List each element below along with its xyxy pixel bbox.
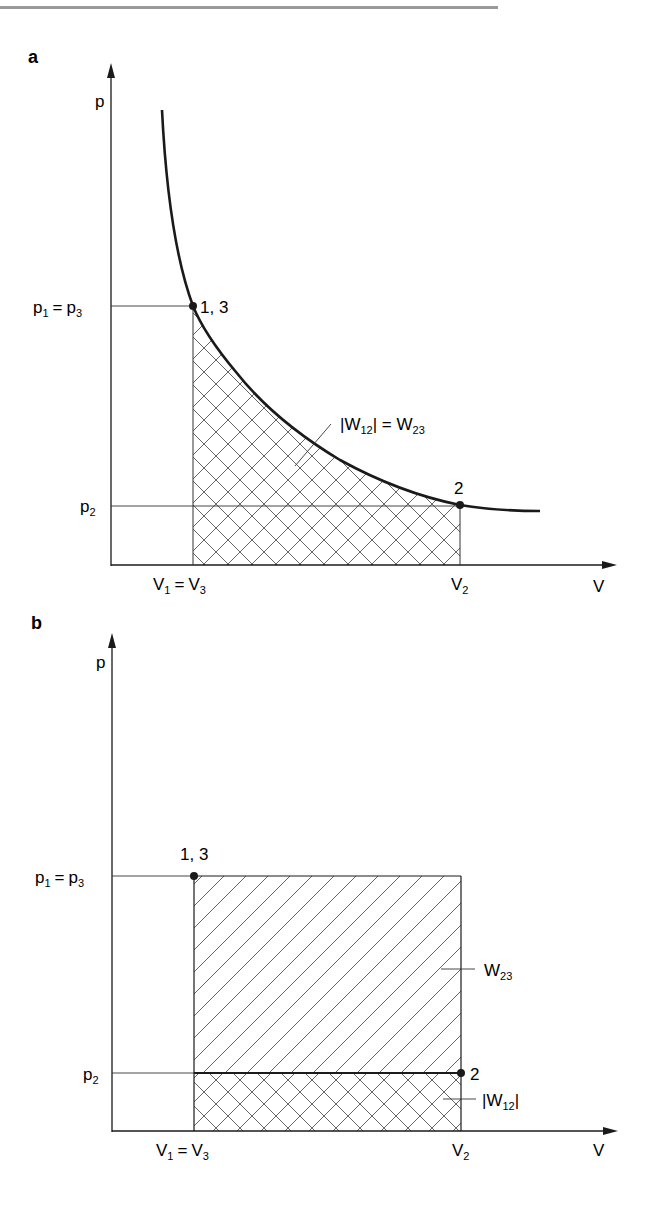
panel-a: a p V 1, 3 2 p1=p3 p2 V1=V3 V2 |W12| = W… bbox=[28, 47, 617, 596]
x-axis-arrow-icon bbox=[603, 1127, 618, 1135]
w12-area-hatch bbox=[194, 1073, 461, 1131]
panel-a-label: a bbox=[28, 47, 39, 67]
tick-label-p1-p3: p1=p3 bbox=[33, 298, 82, 319]
w12-annotation: |W12| bbox=[482, 1091, 519, 1112]
x-axis-label: V bbox=[593, 577, 605, 596]
point-label-2: 2 bbox=[454, 479, 463, 498]
panel-b: b p V 1, 3 2 p1=p3 p2 V1=V3 V2 W23 |W12| bbox=[31, 613, 618, 1162]
w23-area-hatch bbox=[194, 876, 461, 1073]
point-label-2: 2 bbox=[470, 1065, 479, 1084]
pv-diagram-figure: a p V 1, 3 2 p1=p3 p2 V1=V3 V2 |W12| = W… bbox=[0, 0, 645, 1205]
state-point-2 bbox=[456, 501, 464, 509]
x-axis-label: V bbox=[593, 1141, 605, 1160]
tick-label-v2: V2 bbox=[452, 1141, 469, 1162]
y-axis-arrow-icon bbox=[107, 63, 115, 78]
tick-label-v1-v3: V1=V3 bbox=[156, 1141, 209, 1162]
work-annotation: |W12| = W23 bbox=[340, 415, 425, 436]
tick-label-v1-v3: V1=V3 bbox=[153, 575, 206, 596]
panel-b-label: b bbox=[31, 613, 42, 633]
state-point-1-3 bbox=[190, 872, 198, 880]
tick-label-p2: p2 bbox=[80, 497, 96, 518]
y-axis-arrow-icon bbox=[108, 633, 116, 648]
w23-annotation: W23 bbox=[484, 961, 512, 982]
point-label-1-3: 1, 3 bbox=[200, 298, 228, 317]
y-axis-label: p bbox=[95, 92, 104, 111]
point-label-1-3: 1, 3 bbox=[180, 845, 208, 864]
y-axis-label: p bbox=[96, 653, 105, 672]
tick-label-p2: p2 bbox=[83, 1065, 99, 1086]
x-axis-arrow-icon bbox=[602, 561, 617, 569]
tick-label-p1-p3: p1=p3 bbox=[35, 868, 84, 889]
state-point-1-3 bbox=[189, 302, 197, 310]
state-point-2 bbox=[457, 1069, 465, 1077]
tick-label-v2: V2 bbox=[451, 575, 468, 596]
